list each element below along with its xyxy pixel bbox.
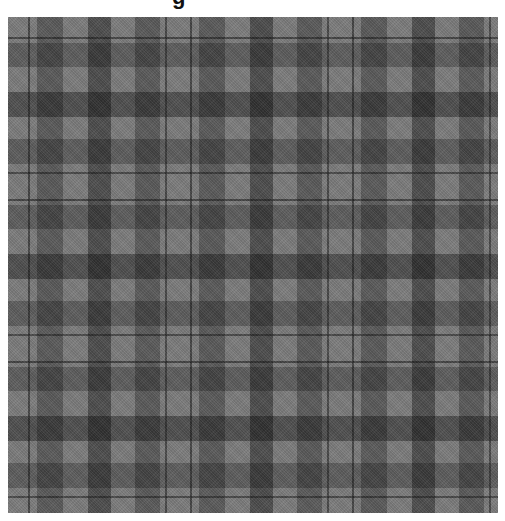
twill-texture [8,17,498,513]
plaid-fabric-swatch [8,17,498,513]
cropped-caption-text: g [172,0,185,8]
